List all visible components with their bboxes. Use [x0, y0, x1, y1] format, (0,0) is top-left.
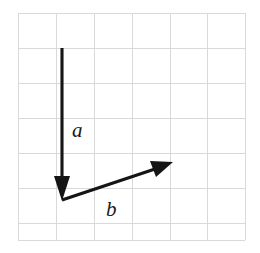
vector-diagram-figure: a b: [0, 0, 260, 253]
vector-a-label: a: [72, 118, 83, 142]
vector-diagram-canvas: a b: [0, 0, 260, 253]
vector-b-label: b: [106, 197, 117, 221]
figure-background: [0, 0, 260, 253]
